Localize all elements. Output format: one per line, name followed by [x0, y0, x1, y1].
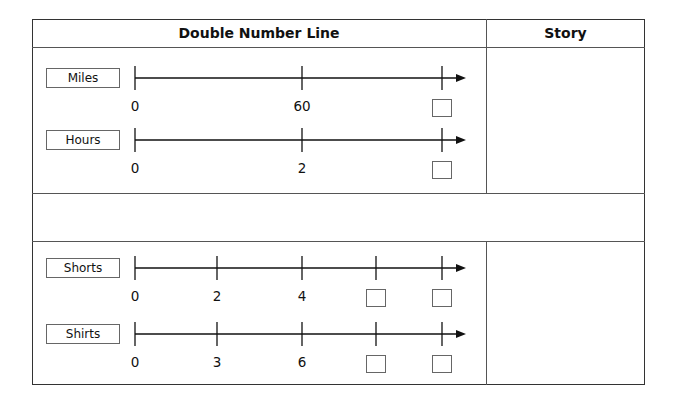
- shirts-arrow-icon: [456, 330, 466, 338]
- miles-label: Miles: [46, 68, 120, 88]
- hours-label: Hours: [46, 130, 120, 150]
- hours-answer-box[interactable]: [432, 161, 452, 179]
- shirts-tick-label: 3: [213, 354, 222, 370]
- shorts-label: Shorts: [46, 258, 120, 278]
- shirts-tick-label: 6: [298, 354, 307, 370]
- hours-tick-label: 2: [298, 160, 307, 176]
- shorts-tick-label: 0: [131, 288, 140, 304]
- miles-tick-label: 60: [293, 98, 310, 114]
- miles-answer-box[interactable]: [432, 99, 452, 117]
- shorts-arrow-icon: [456, 264, 466, 272]
- shorts-tick-label: 2: [213, 288, 222, 304]
- shorts-answer-box[interactable]: [366, 289, 386, 307]
- miles-tick-label: 0: [131, 98, 140, 114]
- miles-arrow-icon: [456, 74, 466, 82]
- shirts-label: Shirts: [46, 324, 120, 344]
- shorts-answer-box[interactable]: [432, 289, 452, 307]
- number-lines-svg: [0, 0, 676, 405]
- shirts-answer-box[interactable]: [366, 355, 386, 373]
- shirts-tick-label: 0: [131, 354, 140, 370]
- hours-tick-label: 0: [131, 160, 140, 176]
- shirts-answer-box[interactable]: [432, 355, 452, 373]
- hours-arrow-icon: [456, 136, 466, 144]
- shorts-tick-label: 4: [298, 288, 307, 304]
